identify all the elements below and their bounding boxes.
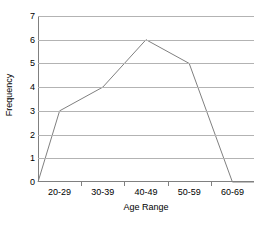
x-axis-tick-label: 30-39 [81, 186, 124, 200]
plot-area [38, 16, 254, 182]
y-axis-tick-label: 5 [21, 58, 35, 68]
gridline [38, 40, 254, 41]
gridline [38, 111, 254, 112]
series-frequency [38, 16, 254, 182]
y-axis-tick-labels: 01234567 [18, 0, 35, 200]
gridline [38, 135, 254, 136]
x-axis-tick-label: 60-69 [211, 186, 254, 200]
x-axis-tick-label: 40-49 [124, 186, 167, 200]
y-axis-title-label: Frequency [4, 74, 14, 117]
x-axis-title: Age Range [38, 202, 254, 212]
y-axis-tick-label: 6 [21, 35, 35, 45]
gridline [38, 158, 254, 159]
gridline [38, 63, 254, 64]
y-axis-tick-label: 4 [21, 82, 35, 92]
x-axis-tick-label: 20-29 [38, 186, 81, 200]
frequency-line-chart: Frequency 01234567 20-2930-3940-4950-596… [0, 0, 264, 225]
gridline [38, 87, 254, 88]
y-axis-tick-label: 0 [21, 177, 35, 187]
y-axis-title: Frequency [0, 0, 18, 190]
y-axis-tick-label: 1 [21, 153, 35, 163]
y-axis-tick-label: 3 [21, 106, 35, 116]
gridline [38, 16, 254, 17]
x-axis-tick-labels: 20-2930-3940-4950-5960-69 [38, 186, 254, 200]
y-axis-tick-label: 7 [21, 11, 35, 21]
y-axis-tick-label: 2 [21, 130, 35, 140]
x-axis-tick-label: 50-59 [168, 186, 211, 200]
